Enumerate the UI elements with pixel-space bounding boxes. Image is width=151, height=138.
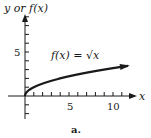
- sqrt-function-graph: y or f(x) x f(x) = √x 5 10 5 a.: [0, 0, 151, 138]
- x-axis-ticks: [34, 92, 122, 96]
- function-label: f(x) = √x: [50, 49, 100, 62]
- x-tick-label-5: 5: [67, 101, 73, 112]
- x-axis-arrow-icon: [129, 93, 137, 99]
- figure-caption: a.: [71, 124, 81, 135]
- y-axis-ticks: [25, 17, 29, 114]
- y-tick-label-5: 5: [14, 47, 20, 58]
- curve-arrow-icon: [120, 64, 130, 70]
- x-tick-label-10: 10: [107, 101, 120, 112]
- sqrt-curve: [25, 66, 128, 96]
- x-axis-label: x: [139, 90, 146, 103]
- y-axis-arrow-icon: [22, 14, 28, 22]
- y-axis-label: y or f(x): [3, 2, 48, 15]
